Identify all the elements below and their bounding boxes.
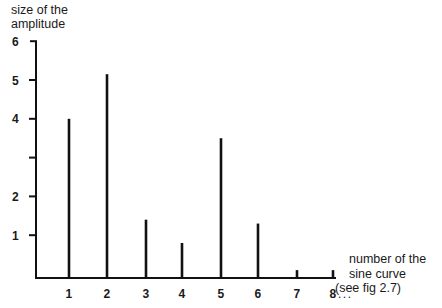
x-tick-label: 5 bbox=[218, 287, 225, 301]
x-axis-label-line-2: sine curve bbox=[349, 267, 426, 282]
x-tick-label: 2 bbox=[104, 287, 111, 301]
y-axis-label: size of the amplitude bbox=[11, 3, 68, 31]
x-tick-label: 4 bbox=[179, 287, 186, 301]
x-tick-label: 1 bbox=[66, 287, 73, 301]
x-tick-label: 6 bbox=[255, 287, 262, 301]
x-axis-label-line-1: number of the bbox=[349, 252, 426, 267]
x-tick-label: 3 bbox=[143, 287, 150, 301]
y-tick-label: 2 bbox=[12, 190, 19, 204]
y-axis-label-line-1: size of the bbox=[11, 3, 68, 17]
y-tick-label: 4 bbox=[12, 112, 19, 126]
x-tick-label: 7 bbox=[294, 287, 301, 301]
y-tick-label: 1 bbox=[12, 229, 19, 243]
x-axis-label: number of the sine curve (see fig 2.7) bbox=[349, 252, 426, 296]
amplitude-spectrum-chart: size of the amplitude 1245612345678... n… bbox=[0, 0, 442, 308]
y-axis-label-line-2: amplitude bbox=[11, 17, 68, 31]
y-tick-label: 6 bbox=[12, 35, 19, 49]
y-tick-label: 5 bbox=[12, 74, 19, 88]
x-axis-label-line-3: (see fig 2.7) bbox=[335, 281, 426, 296]
